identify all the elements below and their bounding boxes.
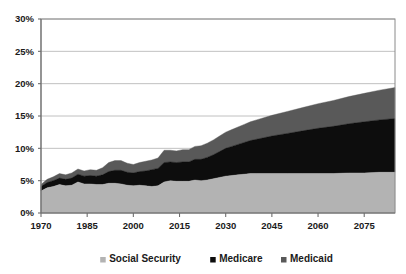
chart-legend: Social SecurityMedicareMedicaid bbox=[100, 253, 333, 264]
y-tick-label: 20% bbox=[15, 78, 35, 89]
y-tick-label: 0% bbox=[20, 207, 34, 218]
y-tick-label: 15% bbox=[15, 110, 35, 121]
area-series-group bbox=[41, 88, 395, 213]
legend-swatch-medicare bbox=[210, 257, 216, 263]
chart-canvas: 0%5%10%15%20%25%30% 19701985200020152030… bbox=[0, 0, 406, 274]
y-axis-labels: 0%5%10%15%20%25%30% bbox=[15, 13, 41, 218]
y-tick-label: 10% bbox=[15, 143, 35, 154]
stacked-area-chart: 0%5%10%15%20%25%30% 19701985200020152030… bbox=[0, 0, 406, 274]
y-tick-label: 5% bbox=[20, 175, 34, 186]
x-tick-label: 2045 bbox=[261, 220, 283, 231]
x-tick-label: 2000 bbox=[123, 220, 144, 231]
legend-swatch-social-security bbox=[100, 257, 106, 263]
legend-swatch-medicaid bbox=[281, 257, 287, 263]
legend-label-medicare: Medicare bbox=[219, 253, 263, 264]
x-tick-label: 1970 bbox=[30, 220, 51, 231]
y-tick-label: 30% bbox=[15, 13, 35, 24]
legend-label-medicaid: Medicaid bbox=[290, 253, 333, 264]
x-axis-labels: 19701985200020152030204520602075 bbox=[30, 213, 375, 231]
legend-label-social-security: Social Security bbox=[109, 253, 181, 264]
x-tick-label: 2075 bbox=[354, 220, 376, 231]
x-tick-label: 2030 bbox=[215, 220, 236, 231]
y-tick-label: 25% bbox=[15, 46, 35, 57]
x-tick-label: 2015 bbox=[169, 220, 191, 231]
x-tick-label: 2060 bbox=[307, 220, 328, 231]
x-tick-label: 1985 bbox=[77, 220, 99, 231]
